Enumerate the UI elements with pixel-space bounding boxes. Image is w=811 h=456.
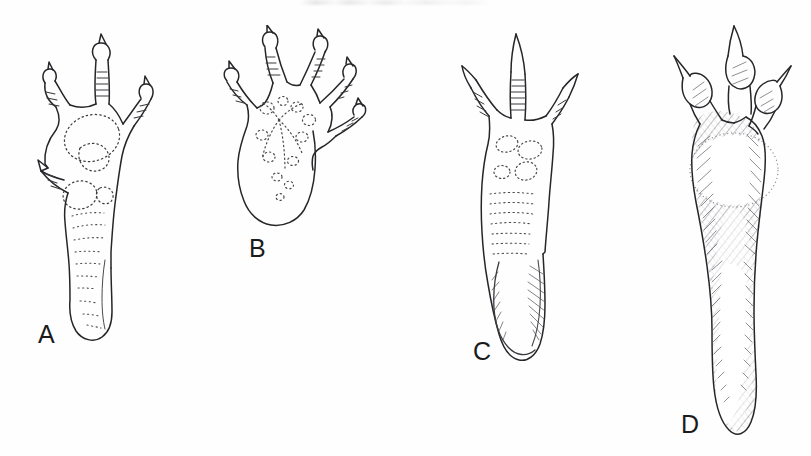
panel-label-a: A — [38, 322, 55, 347]
scan-artifact-top-edge — [300, 0, 490, 5]
panel-label-c: C — [473, 339, 491, 364]
figure-panel-d — [648, 18, 811, 448]
panel-label-b: B — [249, 236, 266, 261]
figure-panel-c — [442, 22, 597, 367]
figure-panel-a — [8, 20, 193, 350]
figure-panel-b — [205, 25, 370, 240]
panel-label-d: D — [681, 412, 699, 437]
figure-plate: A — [0, 0, 811, 456]
